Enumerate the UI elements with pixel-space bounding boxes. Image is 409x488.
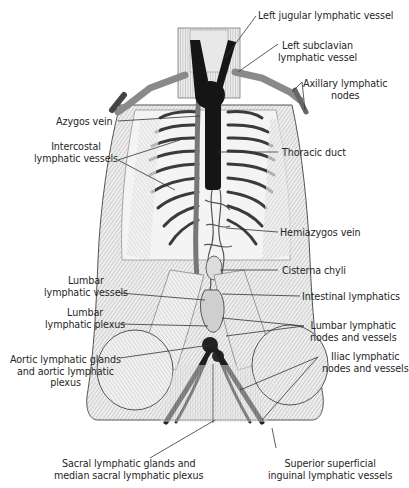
label-left-jugular-lymphatic-vessel: Left jugular lymphatic vessel [258, 10, 393, 22]
label-sacral-lymphatic-glands-and-plexus: Sacral lymphatic glands and median sacra… [54, 458, 203, 481]
label-cisterna-chyli: Cisterna chyli [282, 265, 346, 277]
label-left-subclavian-lymphatic-vessel: Left subclavian lymphatic vessel [278, 40, 357, 63]
label-hemiazygos-vein: Hemiazygos vein [280, 227, 361, 239]
label-superior-superficial-inguinal-lymphatic-vessels: Superior superficial inguinal lymphatic … [268, 458, 392, 481]
label-lumbar-lymphatic-plexus: Lumbar lymphatic plexus [45, 307, 125, 330]
label-azygos-vein: Azygos vein [56, 116, 113, 128]
pelvic-floor-mesh [160, 365, 268, 422]
label-thoracic-duct: Thoracic duct [282, 147, 346, 159]
label-lumbar-lymphatic-vessels: Lumbar lymphatic vessels [44, 275, 128, 298]
label-aortic-lymphatic-glands-and-plexus: Aortic lymphatic glands and aortic lymph… [10, 354, 121, 389]
label-iliac-lymphatic-nodes-and-vessels: Iliac lymphatic nodes and vessels [322, 351, 409, 374]
label-lumbar-lymphatic-nodes-and-vessels: Lumbar lymphatic nodes and vessels [310, 320, 397, 343]
label-intestinal-lymphatics: Intestinal lymphatics [302, 291, 400, 303]
label-intercostal-lymphatic-vessels: Intercostal lymphatic vessels [34, 141, 118, 164]
label-axillary-lymphatic-nodes: Axillary lymphatic nodes [303, 78, 387, 101]
